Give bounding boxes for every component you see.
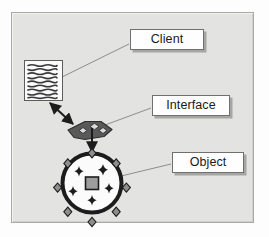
leader-line-object [117,164,171,177]
leader-line-client [60,44,129,78]
label-object-text: Object [190,156,227,169]
object-center-square [86,177,99,190]
diagram-screenshot: Client Interface Object [0,0,269,237]
document-icon [25,61,63,101]
label-object[interactable]: Object [172,152,244,173]
object-ring [54,149,131,227]
interface-chevron [68,122,112,140]
label-client[interactable]: Client [130,29,204,50]
label-client-text: Client [151,33,184,46]
arrow-client-interface [50,103,73,124]
label-interface-text: Interface [166,99,216,112]
label-interface[interactable]: Interface [152,95,230,116]
